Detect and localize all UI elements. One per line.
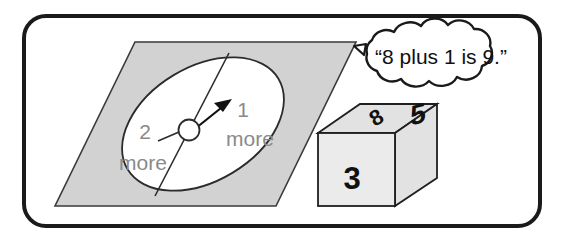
- spinner-label-right-word: more: [226, 127, 274, 150]
- spinner-label-left-value: 2: [139, 120, 151, 143]
- spinner-label-right-value: 1: [237, 98, 249, 121]
- illustration-scene: 2 more 1 more 8 3 5 “8 plus: [0, 0, 562, 239]
- cube-digit-front: 3: [343, 161, 360, 196]
- cube-digit-right: 5: [410, 96, 426, 131]
- spinner-label-left-word: more: [119, 151, 167, 174]
- illustration-canvas: 2 more 1 more 8 3 5 “8 plus: [0, 0, 562, 239]
- spinner-hub: [179, 120, 200, 141]
- speech-bubble-text: “8 plus 1 is 9.”: [375, 45, 507, 68]
